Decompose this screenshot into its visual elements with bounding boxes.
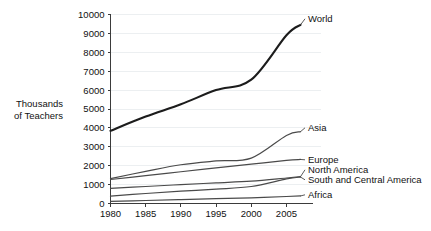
leader-line-north-america bbox=[301, 170, 306, 177]
x-tick-label: 1980 bbox=[100, 208, 121, 219]
y-axis-title-line2: of Teachers bbox=[14, 110, 63, 121]
y-tick-label: 3000 bbox=[83, 141, 104, 152]
y-tick-label: 6000 bbox=[83, 85, 104, 96]
y-tick-label: 4000 bbox=[83, 122, 104, 133]
gridlines bbox=[111, 15, 321, 185]
y-tick-label: 10000 bbox=[78, 9, 104, 20]
x-tick-label: 1985 bbox=[135, 208, 156, 219]
series-label-south-and-central-america: South and Central America bbox=[308, 174, 422, 185]
y-tick-label: 5000 bbox=[83, 103, 104, 114]
x-tick-label: 1990 bbox=[170, 208, 191, 219]
y-tick-label: 9000 bbox=[83, 28, 104, 39]
series-label-asia: Asia bbox=[308, 122, 327, 133]
y-axis-tick-labels: 0100020003000400050006000700080009000100… bbox=[78, 9, 104, 209]
series-labels: WorldAsiaEuropeNorth AmericaSouth and Ce… bbox=[308, 13, 422, 200]
tick-marks bbox=[108, 15, 287, 207]
x-axis-tick-labels: 198019851990199520002005 bbox=[100, 208, 297, 219]
y-tick-label: 8000 bbox=[83, 47, 104, 58]
series-label-africa: Africa bbox=[308, 189, 333, 200]
leader-line-south-and-central-america bbox=[301, 177, 306, 180]
y-tick-label: 2000 bbox=[83, 160, 104, 171]
series-line-africa bbox=[111, 196, 301, 201]
series-label-world: World bbox=[308, 13, 333, 24]
series-line-asia bbox=[111, 132, 301, 179]
x-tick-label: 2000 bbox=[241, 208, 262, 219]
x-tick-label: 1995 bbox=[205, 208, 226, 219]
leader-line-africa bbox=[301, 195, 306, 196]
data-series-lines bbox=[111, 25, 301, 202]
x-tick-label: 2005 bbox=[276, 208, 297, 219]
teachers-line-chart: 0100020003000400050006000700080009000100… bbox=[0, 0, 431, 231]
label-leader-lines bbox=[301, 19, 306, 196]
chart-canvas: 0100020003000400050006000700080009000100… bbox=[0, 0, 431, 231]
leader-line-world bbox=[301, 19, 306, 25]
y-axis-title-line1: Thousands bbox=[16, 98, 63, 109]
y-tick-label: 1000 bbox=[83, 179, 104, 190]
series-line-world bbox=[111, 25, 301, 131]
y-tick-label: 7000 bbox=[83, 66, 104, 77]
y-axis-title: Thousands of Teachers bbox=[14, 98, 63, 121]
